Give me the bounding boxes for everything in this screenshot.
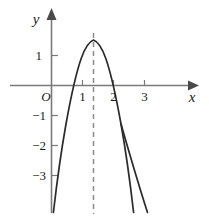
origin-label: O (41, 89, 51, 104)
parabola-figure: y x O 1 2 3 1 −1 −2 −3 (0, 0, 209, 219)
x-tick-label-3: 3 (141, 89, 148, 104)
y-tick-label-1: 1 (36, 48, 43, 63)
y-axis-arrowhead (47, 8, 57, 20)
x-axis-label: x (188, 89, 196, 105)
x-tick-label-1: 1 (79, 89, 86, 104)
y-tick-label-neg1: −1 (32, 108, 46, 123)
y-tick-label-neg3: −3 (32, 168, 46, 183)
parabola-curve-right-tail (121, 124, 148, 213)
plot-canvas: y x O 1 2 3 1 −1 −2 −3 (0, 0, 209, 219)
x-tick-label-2: 2 (110, 89, 117, 104)
y-tick-label-neg2: −2 (32, 138, 46, 153)
y-axis-label: y (31, 11, 40, 27)
